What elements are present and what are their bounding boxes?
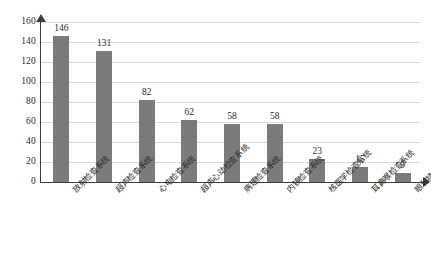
y-tick-label: 0 — [2, 177, 36, 187]
bar[interactable] — [53, 36, 69, 182]
bar-value-label: 82 — [142, 88, 152, 98]
y-tick-label: 140 — [2, 37, 36, 47]
y-tick-label: 160 — [2, 17, 36, 27]
category-label: 内镜检查系统 — [285, 188, 291, 194]
category-label: 超声心动检查系统 — [199, 188, 205, 194]
category-label: 超声检查系统 — [114, 188, 120, 194]
bar-value-label: 58 — [270, 112, 280, 122]
category-label: 病理检查系统 — [242, 188, 248, 194]
bar-value-label: 131 — [97, 39, 111, 49]
y-tick-label: 40 — [2, 137, 36, 147]
category-label: 心电检查系统 — [157, 188, 163, 194]
y-tick-label: 100 — [2, 77, 36, 87]
y-tick-label: 80 — [2, 97, 36, 107]
bar-value-label: 62 — [185, 108, 195, 118]
category-label: 眼科特检系统 — [413, 188, 419, 194]
bar[interactable] — [395, 173, 411, 182]
bar-value-label: 58 — [227, 112, 237, 122]
y-axis-tick-labels: 020406080100120140160 — [0, 0, 36, 274]
y-tick-label: 60 — [2, 117, 36, 127]
bar-group: 146 — [53, 22, 69, 182]
y-tick-label: 20 — [2, 157, 36, 167]
category-label: 耳鼻喉检查系统 — [370, 188, 376, 194]
y-tick-label: 120 — [2, 57, 36, 67]
category-label: 放射检查系统 — [71, 188, 77, 194]
x-axis-category-labels: 放射检查系统超声检查系统心电检查系统超声心动检查系统病理检查系统内镜检查系统核医… — [40, 184, 424, 274]
y-axis-arrow-icon — [36, 14, 46, 22]
bar-value-label: 146 — [54, 24, 68, 34]
bar-chart: 020406080100120140160 146131826258582315… — [0, 0, 431, 274]
category-label: 核医学检查系统 — [327, 188, 333, 194]
